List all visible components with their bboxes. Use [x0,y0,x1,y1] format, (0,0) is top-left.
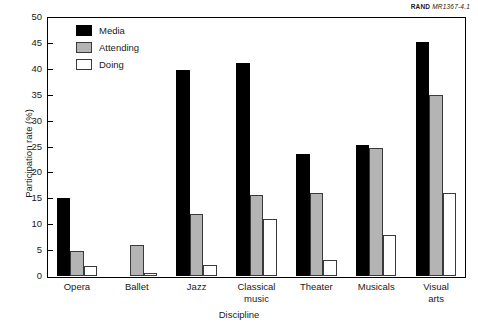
legend-label: Media [99,25,125,36]
legend-swatch-icon [76,42,92,53]
x-category-label: Musicals [346,281,406,293]
x-category-label-line: Ballet [107,281,167,293]
legend-item-attending: Attending [76,39,139,55]
y-axis-title: Participation rate (%) [23,74,34,234]
chart-figure: RANDMR1367-4.1 Participation rate (%) Di… [0,0,478,324]
x-category-label-line: music [227,293,287,305]
legend-label: Attending [99,42,139,53]
x-category-label-line: arts [406,293,466,305]
x-category-label: Ballet [107,281,167,293]
legend: MediaAttendingDoing [76,22,139,73]
legend-label: Doing [99,59,124,70]
x-category-label: Theater [286,281,346,293]
y-tick-label: 5 [5,245,42,255]
x-axis-title: Discipline [0,309,478,320]
x-category-label-line: Jazz [167,281,227,293]
x-category-label-line: Musicals [346,281,406,293]
x-category-label-line: Visual [406,281,466,293]
y-tick-label: 40 [5,64,42,74]
legend-swatch-icon [76,25,92,36]
source-credit-document-id: MR1367-4.1 [432,3,470,10]
x-category-label-line: Theater [286,281,346,293]
y-tick-label: 45 [5,38,42,48]
x-category-label-line: Opera [47,281,107,293]
y-tick-label: 0 [5,271,42,281]
x-category-label: Classicalmusic [227,281,287,304]
source-credit: RANDMR1367-4.1 [411,2,470,11]
y-tick-label: 50 [5,12,42,22]
x-category-label: Jazz [167,281,227,293]
legend-swatch-icon [76,59,92,70]
legend-item-doing: Doing [76,56,139,72]
legend-item-media: Media [76,22,139,38]
x-category-label: Visualarts [406,281,466,304]
source-credit-brand: RAND [411,3,431,10]
x-category-label: Opera [47,281,107,293]
x-category-label-line: Classical [227,281,287,293]
